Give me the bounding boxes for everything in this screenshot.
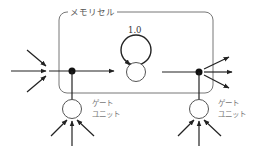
cell-state-node	[127, 63, 146, 82]
input-gate-label-line2: ユニット	[92, 111, 120, 119]
lstm-memory-cell-diagram	[0, 0, 260, 155]
output-gate-unit-node	[190, 100, 209, 119]
output-arrow-top	[204, 57, 229, 69]
input-gate-in-left	[51, 120, 67, 136]
output-gate-label-line1: ゲート	[218, 100, 246, 108]
output-gate-in-right	[204, 120, 221, 136]
self-loop-arrowhead	[125, 60, 130, 65]
input-gate-unit-node	[63, 100, 82, 119]
output-arrow-bottom	[204, 75, 229, 88]
self-loop-weight: 1.0	[128, 26, 142, 35]
output-gate-in-left	[178, 120, 194, 136]
input-gate-label-line1: ゲート	[92, 100, 120, 108]
input-arrow-top	[27, 50, 46, 66]
memory-cell-label: メモリセル	[68, 8, 117, 17]
input-gate-in-right	[77, 120, 94, 136]
output-gate-label-line2: ユニット	[218, 111, 246, 119]
input-gate-label: ゲート ユニット	[92, 100, 120, 121]
input-arrow-bottom	[27, 76, 46, 92]
output-gate-label: ゲート ユニット	[218, 100, 246, 121]
